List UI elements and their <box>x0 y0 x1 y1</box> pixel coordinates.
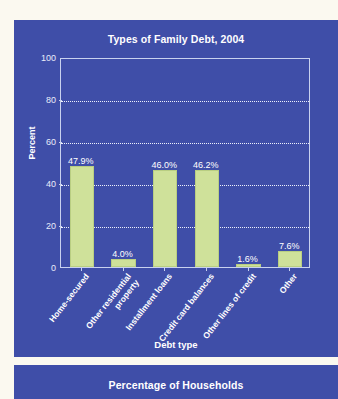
x-tick-mark <box>248 268 249 271</box>
y-axis-tick-labels: 020406080100 <box>14 58 56 268</box>
gridline-60 <box>61 143 309 144</box>
bar-value-label: 46.2% <box>193 160 219 170</box>
bar <box>111 259 135 267</box>
x-tick-mark <box>289 268 290 271</box>
y-tick-label-60: 60 <box>16 137 56 147</box>
y-tick-mark-20 <box>59 226 62 227</box>
bar <box>236 264 260 267</box>
y-tick-label-40: 40 <box>16 179 56 189</box>
bar-value-label: 46.0% <box>151 160 177 170</box>
bar <box>278 251 302 267</box>
bar-value-label: 1.6% <box>237 254 258 264</box>
y-tick-mark-80 <box>59 100 62 101</box>
x-tick-mark <box>123 268 124 271</box>
chart-panel: Types of Family Debt, 2004 Percent 02040… <box>14 20 338 357</box>
y-tick-mark-60 <box>59 142 62 143</box>
bar <box>153 170 177 267</box>
secondary-panel: Percentage of Households <box>14 365 338 399</box>
plot-area <box>60 58 310 268</box>
bar-value-label: 7.6% <box>279 241 300 251</box>
bar-value-label: 47.9% <box>68 156 94 166</box>
y-tick-mark-40 <box>59 184 62 185</box>
x-tick-mark <box>164 268 165 271</box>
x-axis-title: Debt type <box>14 339 338 350</box>
x-tick-mark <box>81 268 82 271</box>
bar <box>70 166 94 267</box>
chart-title: Types of Family Debt, 2004 <box>14 33 338 45</box>
y-tick-label-20: 20 <box>16 221 56 231</box>
y-tick-label-0: 0 <box>16 263 56 273</box>
x-tick-label: Other <box>278 272 299 296</box>
bar-value-label: 4.0% <box>112 249 133 259</box>
x-tick-label: Home-secured <box>47 272 91 324</box>
gridline-20 <box>61 227 309 228</box>
bar <box>195 170 219 267</box>
gridline-40 <box>61 185 309 186</box>
y-tick-label-80: 80 <box>16 95 56 105</box>
secondary-panel-title: Percentage of Households <box>14 379 338 391</box>
x-tick-mark <box>206 268 207 271</box>
gridline-80 <box>61 101 309 102</box>
y-tick-label-100: 100 <box>16 53 56 63</box>
